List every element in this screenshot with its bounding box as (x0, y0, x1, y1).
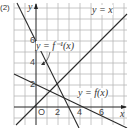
x-tick-4: 4 (77, 108, 82, 117)
graph-figure: (2) y x O 2 4 6 2 4 6 y = x y = f(x) y =… (0, 0, 130, 128)
line-f-inverse (17, 3, 79, 128)
y-tick-4: 4 (30, 58, 35, 67)
y-tick-2: 2 (30, 80, 35, 89)
origin-label: O (38, 108, 45, 117)
y-tick-6: 6 (30, 36, 35, 45)
line-y-equals-x (16, 14, 127, 125)
problem-label: (2) (0, 4, 10, 12)
label-y-equals-f-inverse: y = f⁻¹(x) (36, 41, 74, 51)
graph-canvas (0, 0, 130, 128)
x-axis-label: x (120, 109, 124, 119)
y-axis-label: y (28, 2, 32, 12)
label-y-equals-f: y = f(x) (78, 88, 108, 98)
y-axis-arrow-icon (34, 3, 38, 9)
label-y-equals-x: y = x (92, 5, 113, 15)
x-tick-6: 6 (99, 108, 104, 117)
x-tick-2: 2 (55, 108, 60, 117)
